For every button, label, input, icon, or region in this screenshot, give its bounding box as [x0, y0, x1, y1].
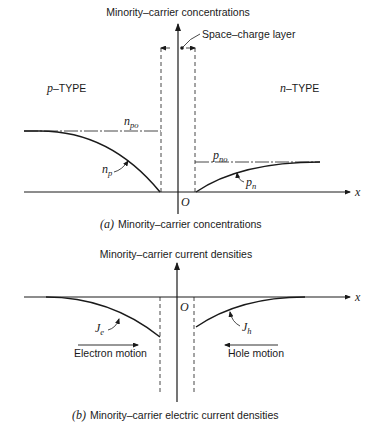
figure-a-concentrations: Minority–carrier concentrations x O Spac…: [24, 6, 361, 231]
figure-a-origin-label: O: [181, 195, 190, 209]
pno-label: pno: [212, 148, 228, 164]
np-label: np: [102, 162, 112, 178]
jh-pointer: [230, 312, 240, 326]
figure-b-caption: (b)Minority–carrier electric current den…: [72, 408, 278, 422]
space-charge-leader: [182, 34, 200, 48]
n-type-label: n–TYPE: [280, 81, 319, 95]
figure-b-x-label: x: [354, 290, 361, 304]
figure-b-y-axis-title: Minority–carrier current densities: [100, 248, 252, 260]
np-pointer: [114, 161, 128, 172]
figure-a-caption: (a)Minority–carrier concentrations: [100, 217, 262, 231]
pn-pointer: [237, 173, 244, 182]
jh-curve: [196, 297, 305, 327]
pn-junction-diagram: Minority–carrier concentrations x O Spac…: [0, 0, 375, 436]
npo-label: npo: [124, 114, 139, 130]
space-charge-label: Space–charge layer: [202, 28, 296, 40]
figure-a-y-axis-title: Minority–carrier concentrations: [106, 6, 250, 18]
np-curve: [24, 131, 160, 192]
pn-curve: [196, 162, 320, 192]
figure-b-origin-label: O: [180, 300, 189, 314]
jh-label: Jh: [242, 320, 252, 336]
pn-label: pn: [245, 175, 256, 191]
figure-b-current-densities: Minority–carrier current densities x O J…: [24, 248, 361, 422]
figure-a-x-label: x: [354, 185, 361, 199]
p-type-label: p–TYPE: [46, 81, 86, 95]
je-label: Je: [95, 321, 104, 337]
electron-motion-label: Electron motion: [74, 347, 147, 359]
je-pointer: [108, 319, 119, 330]
hole-motion-label: Hole motion: [228, 347, 284, 359]
